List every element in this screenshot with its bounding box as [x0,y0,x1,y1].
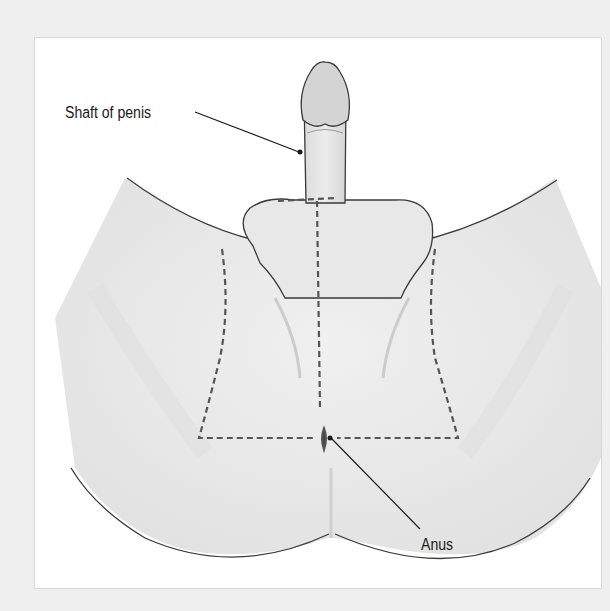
diagram-panel: Shaft of penis Anus [34,37,602,589]
anus-mark [322,428,326,450]
label-shaft-of-penis: Shaft of penis [65,104,151,122]
glans [301,62,349,126]
label-anus: Anus [421,536,453,554]
